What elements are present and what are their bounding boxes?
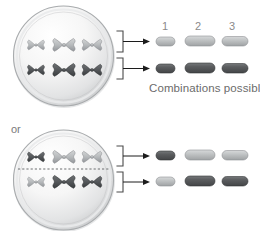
gamete-row-2: [156, 63, 248, 73]
lower-cell-upper-row: [28, 150, 102, 163]
column-number-3: 3: [225, 20, 239, 32]
bracket-4: [117, 172, 123, 192]
lower-gamete-brackets: [117, 146, 123, 192]
or-label: or: [11, 123, 21, 135]
upper-arrowheads: [143, 39, 150, 72]
figure-graphics: [0, 0, 260, 231]
meiosis-independent-assortment-figure: 1 2 3 Combinations possible or: [0, 0, 260, 231]
combinations-possible-label: Combinations possible: [149, 82, 260, 94]
bracket-3: [117, 146, 123, 166]
column-number-2: 2: [191, 20, 205, 32]
column-number-1: 1: [158, 20, 172, 32]
bracket-2: [117, 58, 123, 79]
upper-cell: [13, 6, 115, 108]
lower-cell-lower-row: [28, 175, 102, 188]
lower-gamete-arrows: [123, 156, 143, 182]
upper-gamete-arrows: [123, 42, 143, 69]
lower-arrowheads: [143, 153, 150, 185]
lower-cell: [13, 130, 115, 231]
gamete-row-1: [156, 36, 248, 46]
gamete-row-4: [156, 176, 248, 186]
bracket-1: [117, 31, 123, 52]
upper-cell-upper-row: [28, 38, 102, 51]
upper-cell-lower-row: [28, 63, 102, 76]
upper-gamete-brackets: [117, 31, 123, 79]
gamete-row-3: [156, 150, 248, 160]
